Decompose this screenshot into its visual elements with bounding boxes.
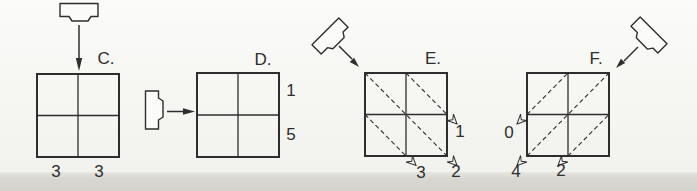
- light-emitter-icon: [146, 91, 164, 129]
- beam-arrow-diagonal-icon: [616, 47, 638, 68]
- beam-arrow-diagonal-icon: [339, 46, 359, 67]
- beam-arrowhead: [76, 58, 82, 71]
- value-label: 4: [511, 162, 520, 181]
- beam-shaft: [624, 47, 638, 61]
- panel-d: D. 1 5: [146, 50, 296, 157]
- dashed-diagonal-upper: [527, 73, 568, 115]
- value-label: 2: [556, 161, 565, 180]
- dashed-diagonal-lower: [365, 115, 406, 157]
- panel-c: C. 3 3: [37, 4, 119, 182]
- exit-arrow-icon: [514, 114, 527, 127]
- value-label: 2: [451, 162, 460, 181]
- dashed-diagonal-upper: [406, 73, 447, 115]
- value-label: 3: [94, 162, 103, 181]
- beam-shaft: [339, 46, 352, 59]
- light-emitter-icon: [60, 4, 98, 22]
- value-label: 3: [416, 163, 425, 182]
- value-label: 3: [51, 162, 60, 181]
- beam-arrow-right-icon: [167, 108, 195, 115]
- panel-f: F. 0 4 2: [504, 17, 667, 181]
- value-label: 0: [504, 123, 513, 142]
- quad-square: [37, 74, 119, 157]
- panel-label: D.: [255, 50, 272, 69]
- panel-e: E. 1 2 3: [312, 18, 465, 182]
- diagram-svg: C. 3 3 D. 1 5: [0, 0, 697, 191]
- panel-label: E.: [425, 49, 441, 68]
- beam-arrowhead: [183, 108, 195, 115]
- beam-arrow-down-icon: [76, 25, 82, 71]
- panel-label: F.: [589, 49, 602, 68]
- quad-square: [197, 73, 279, 157]
- panel-label: C.: [98, 49, 115, 68]
- value-label: 1: [286, 81, 295, 100]
- dashed-diagonal-lower: [568, 115, 609, 157]
- value-label: 1: [455, 122, 464, 141]
- value-label: 5: [286, 125, 295, 144]
- figure-canvas: C. 3 3 D. 1 5: [0, 0, 697, 191]
